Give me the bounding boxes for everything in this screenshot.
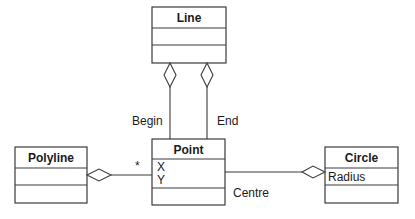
class-point-name: Point bbox=[174, 143, 204, 157]
role-label-end: End bbox=[217, 114, 238, 128]
class-point-attribute-x: X bbox=[157, 160, 165, 174]
class-line-name: Line bbox=[177, 11, 202, 25]
uml-class-diagram: Line Begin End Point X Y Polyline * bbox=[0, 0, 415, 219]
association-centre: Centre bbox=[225, 166, 325, 200]
class-point-attribute-y: Y bbox=[157, 173, 165, 187]
class-polyline-name: Polyline bbox=[28, 151, 74, 165]
association-begin: Begin bbox=[132, 63, 176, 139]
class-circle: Circle Radius bbox=[325, 147, 398, 203]
aggregation-diamond-icon bbox=[302, 166, 325, 178]
class-circle-attribute-radius: Radius bbox=[328, 170, 365, 184]
association-polyline: * bbox=[87, 159, 152, 181]
class-circle-name: Circle bbox=[345, 151, 379, 165]
aggregation-diamond-icon bbox=[87, 169, 111, 181]
aggregation-diamond-icon bbox=[201, 63, 213, 87]
class-polyline: Polyline bbox=[15, 147, 87, 203]
association-end: End bbox=[201, 63, 238, 139]
class-line: Line bbox=[152, 7, 226, 63]
aggregation-diamond-icon bbox=[164, 63, 176, 87]
class-point: Point X Y bbox=[152, 139, 225, 205]
role-label-begin: Begin bbox=[132, 114, 163, 128]
role-label-centre: Centre bbox=[233, 186, 269, 200]
multiplicity-label: * bbox=[135, 159, 140, 173]
